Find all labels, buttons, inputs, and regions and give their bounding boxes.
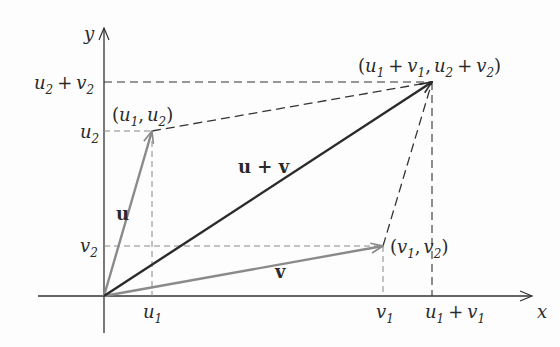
point-label-v-tip: (v1,v2) [390,236,448,261]
y-tick-u2-plus-v2: u2+v2 [34,72,94,97]
y-axis-label: y [83,23,95,44]
y-tick-v2: v2 [80,235,98,260]
vector-sum-label: u + v [238,156,290,177]
vector-v [104,246,383,296]
diagram-canvas: y x u2+v2 u2 v2 u1 v1 u1+v1 (u1,u2) (v1,… [0,0,560,347]
parallelogram-sides [152,82,432,246]
x-tick-u1-plus-v1: u1+v1 [425,301,485,326]
x-axis-label-visible: x [537,301,547,322]
x-tick-v1: v1 [376,301,394,326]
point-label-sum-tip: (u1+v1,u2+v2) [358,55,501,80]
vector-addition-diagram: y x u2+v2 u2 v2 u1 v1 u1+v1 (u1,u2) (v1,… [0,0,560,347]
vector-u-label: u [116,203,129,224]
vector-v-label: v [274,261,286,282]
x-tick-u1: u1 [143,301,162,326]
y-tick-u2: u2 [80,121,99,146]
point-label-u-tip: (u1,u2) [112,104,173,129]
